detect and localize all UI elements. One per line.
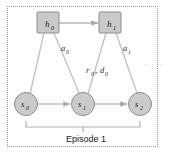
edge-h0-s1 xyxy=(54,33,79,93)
node-s2[interactable]: s 2 xyxy=(129,93,152,116)
edge-h1-s2 xyxy=(116,33,137,93)
ellipsis-annotation: · · · xyxy=(145,60,162,69)
node-h1-sub: 1 xyxy=(113,25,116,31)
edge-label-comma: , xyxy=(95,65,97,75)
node-s1[interactable]: s 1 xyxy=(72,93,95,116)
edge-label-a1-sub: 1 xyxy=(128,49,131,55)
episode-bracket xyxy=(26,121,140,132)
node-s0[interactable]: s 0 xyxy=(15,93,38,116)
edge-label-r0-d0: r 0 , d 0 xyxy=(86,65,108,77)
node-s0-sub: 0 xyxy=(26,105,29,111)
node-h0-label: h xyxy=(45,19,50,29)
edge-label-a1-base: a xyxy=(123,43,127,53)
edge-label-a1: a 1 xyxy=(123,43,131,55)
node-h1[interactable]: h 1 xyxy=(99,12,121,33)
diagram-canvas: h 0 h 1 s 0 s 1 s 2 a 0 xyxy=(0,0,172,160)
edge-label-r-sub: 0 xyxy=(91,71,94,77)
node-s1-sub: 1 xyxy=(83,105,86,111)
node-h1-label: h xyxy=(107,19,112,29)
edge-label-a0-sub: 0 xyxy=(66,49,69,55)
edge-label-r-base: r xyxy=(86,65,90,75)
episode-caption: Episode 1 xyxy=(66,134,106,144)
figure-container: h 0 h 1 s 0 s 1 s 2 a 0 xyxy=(0,0,172,160)
edge-label-a0-base: a xyxy=(61,43,65,53)
node-h0[interactable]: h 0 xyxy=(37,12,59,33)
edge-label-d-sub: 0 xyxy=(105,71,108,77)
edge-s0-h0 xyxy=(30,33,44,94)
node-h0-sub: 0 xyxy=(51,25,54,31)
edge-s1-h1 xyxy=(88,33,106,94)
node-s2-sub: 2 xyxy=(140,105,143,111)
